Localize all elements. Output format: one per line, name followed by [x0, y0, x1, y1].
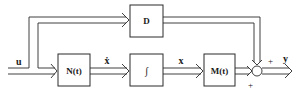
signal-x — [163, 64, 203, 78]
block-m: M(t) — [204, 54, 235, 86]
label-u: u — [16, 56, 22, 67]
block-m-label: M(t) — [211, 66, 229, 76]
label-xdot: ẋ — [105, 55, 110, 66]
label-x: x — [179, 55, 184, 66]
block-d: D — [130, 5, 163, 37]
output-signal-y — [262, 64, 292, 78]
summing-junction — [252, 66, 262, 76]
block-diagram: u D N(t) ẋ ∫ x M(t) — [0, 0, 304, 96]
block-n-label: N(t) — [66, 66, 82, 76]
sign-top: + — [268, 56, 273, 66]
block-n: N(t) — [58, 54, 90, 86]
label-y: y — [283, 53, 288, 64]
signal-mx — [235, 66, 252, 76]
sign-bottom: + — [248, 80, 253, 90]
signal-xdot — [90, 64, 129, 78]
block-d-label: D — [143, 16, 150, 26]
block-integrator: ∫ — [130, 54, 163, 86]
